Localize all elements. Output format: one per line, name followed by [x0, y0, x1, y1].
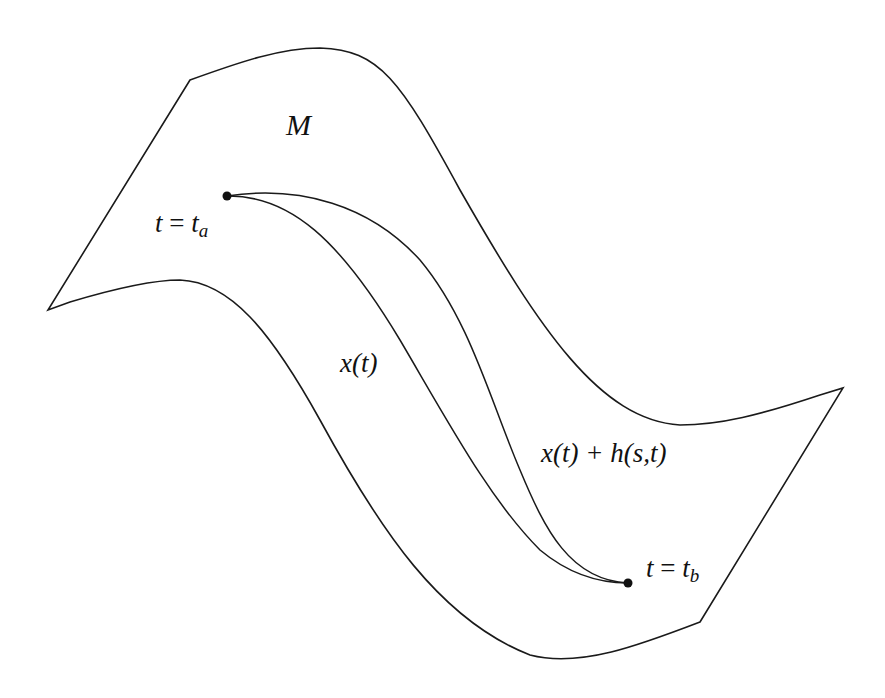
start-sub: a	[199, 220, 209, 241]
end-point-dot	[624, 579, 633, 588]
start-eq: =	[169, 208, 184, 238]
manifold-surface-outline	[48, 48, 843, 659]
end-var: t	[646, 553, 654, 583]
start-point-label: t = ta	[155, 210, 208, 240]
end-val: t	[682, 553, 690, 583]
varied-path-label: x(t) + h(s,t)	[541, 440, 666, 467]
start-point-dot	[223, 192, 232, 201]
base-path-curve	[227, 196, 628, 583]
end-sub: b	[690, 565, 700, 586]
end-eq: =	[660, 553, 675, 583]
end-point-label: t = tb	[646, 555, 699, 585]
start-var: t	[155, 208, 163, 238]
diagram-canvas	[0, 0, 885, 698]
start-val: t	[191, 208, 199, 238]
base-path-label: x(t)	[340, 350, 377, 377]
manifold-label: M	[286, 110, 311, 140]
